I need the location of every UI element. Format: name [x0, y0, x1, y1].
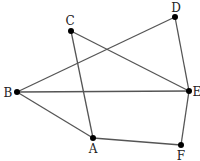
edge-c-a	[71, 31, 93, 138]
node-c	[68, 28, 74, 34]
edge-b-e	[17, 91, 189, 92]
edge-c-e	[71, 31, 189, 91]
edge-d-e	[175, 17, 189, 91]
node-label-b: B	[4, 86, 13, 100]
edge-d-b	[17, 17, 175, 92]
edge-b-a	[17, 92, 93, 138]
edge-a-f	[93, 138, 181, 145]
graph-diagram: ABCDEF	[0, 0, 200, 161]
node-a	[90, 135, 96, 141]
node-label-c: C	[65, 14, 74, 28]
edges-group	[17, 17, 189, 145]
graph-svg: ABCDEF	[0, 0, 200, 161]
node-e	[186, 88, 192, 94]
node-label-a: A	[88, 142, 98, 156]
node-label-f: F	[177, 149, 185, 161]
node-label-d: D	[171, 1, 181, 15]
node-label-e: E	[193, 85, 200, 99]
node-b	[14, 89, 20, 95]
edge-e-f	[181, 91, 189, 145]
node-f	[178, 142, 184, 148]
